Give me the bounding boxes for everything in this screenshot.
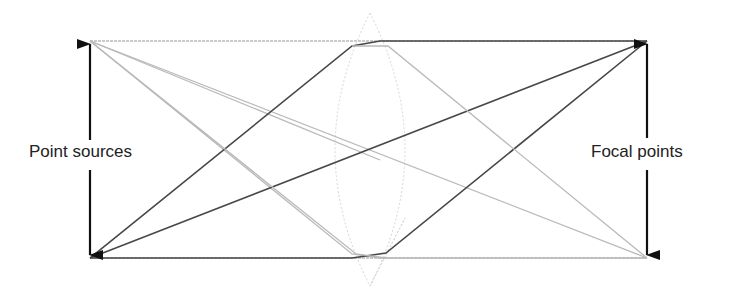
focal-points-label: Focal points	[589, 142, 685, 162]
optics-diagram: Point sources Focal points	[0, 0, 729, 293]
point-sources-label: Point sources	[27, 142, 134, 162]
